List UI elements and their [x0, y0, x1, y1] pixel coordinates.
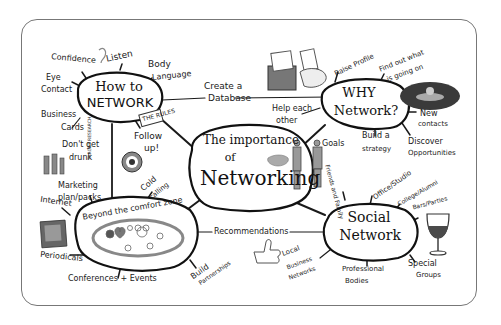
branch-contact: Contact — [41, 86, 72, 94]
why-network-line2: Network? — [326, 104, 406, 118]
how-to-network-line1: How to — [84, 80, 154, 94]
branch-business: Business — [41, 111, 76, 119]
wine-glass-icon — [427, 214, 449, 255]
branch-body: Body — [148, 60, 171, 69]
branch-follow: Follow — [134, 132, 162, 141]
central-title-line3: Networking — [200, 168, 300, 189]
branch-conferences-events: Conferences + Events — [68, 275, 157, 283]
branch-bodies: Bodies — [345, 278, 368, 285]
link-recommendations: Recommendations — [214, 228, 288, 236]
branch-special: Special — [408, 260, 437, 268]
central-title-line1: The importance — [196, 134, 306, 147]
branch-marketing: Marketing — [58, 182, 98, 190]
branch-cards: Cards — [61, 124, 84, 132]
branch-groups: Groups — [416, 272, 441, 279]
branch-discover: Discover — [408, 138, 443, 146]
branch-plan-packs: plan/packs — [58, 194, 101, 202]
drunk-people-icon — [44, 154, 64, 174]
thumbs-up-icon — [254, 240, 280, 263]
periodicals-icon — [40, 220, 67, 248]
ufo-icon — [400, 82, 460, 110]
why-network-line1: WHY — [334, 86, 384, 100]
branch-strategy: strategy — [362, 146, 391, 153]
social-network-line2: Network — [330, 228, 410, 243]
branch-eye: Eye — [46, 74, 61, 82]
branch-goals: Goals — [322, 140, 344, 148]
business-card-hand-icon — [300, 49, 326, 88]
link-database: Database — [208, 94, 251, 103]
branch-opportunities: Opportunities — [408, 150, 456, 157]
target-icon — [122, 152, 142, 172]
card-box-icon — [268, 51, 296, 90]
branch-target-research: TARGET RESEARCH — [88, 117, 93, 160]
central-title-line2: of — [210, 152, 250, 164]
branch-dont-get: Don't get — [62, 141, 99, 149]
branch-help-each: Help each — [272, 105, 312, 113]
branch-professional: Professional — [342, 266, 384, 273]
branch-other: other — [276, 117, 297, 125]
branch-contacts: contacts — [418, 121, 448, 128]
link-create-a: Create a — [204, 82, 242, 91]
branch-up: up! — [144, 144, 159, 153]
world-map-icon — [268, 155, 289, 166]
branch-build-a: Build a — [362, 132, 390, 140]
how-to-network-line2: NETWORK — [80, 96, 160, 110]
branch-new: New — [420, 110, 437, 118]
